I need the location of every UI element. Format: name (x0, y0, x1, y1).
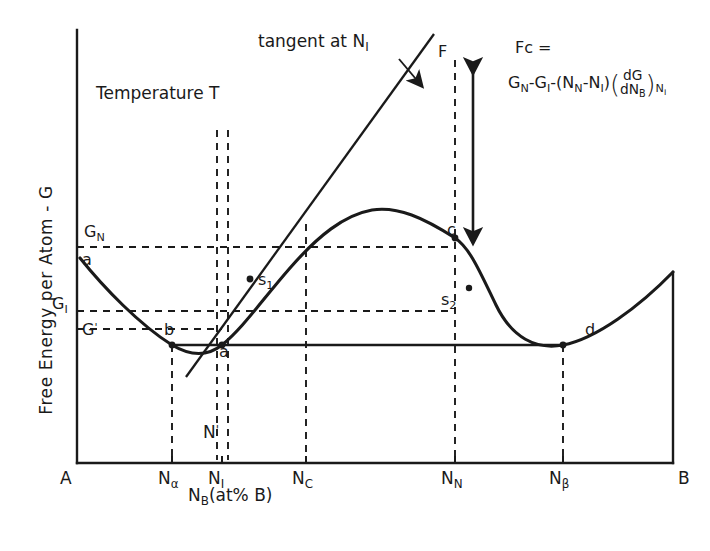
dot-a-bottom (219, 342, 226, 349)
dot-b (169, 342, 176, 349)
dot-d (560, 342, 567, 349)
free-energy-curve (80, 209, 673, 353)
tangent-line-at-N-I (186, 34, 434, 377)
dot-s1 (247, 276, 254, 283)
dot-s2 (466, 285, 472, 291)
dot-c (452, 235, 459, 242)
diagram-canvas (0, 0, 710, 551)
tangent-note-pointer-arrow (399, 59, 421, 85)
vertical-guide-lines (172, 60, 563, 460)
free-energy-diagram: Free Energy per Atom - G NB(at% B) Tempe… (0, 0, 710, 551)
axis-frame (77, 30, 673, 463)
